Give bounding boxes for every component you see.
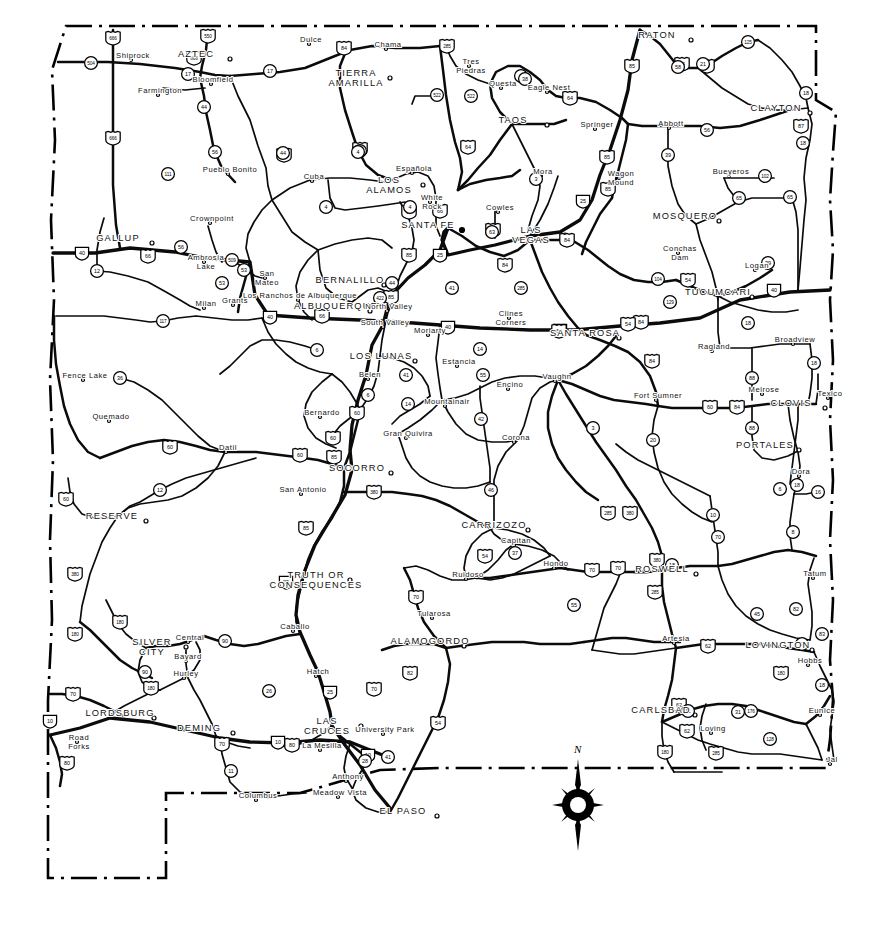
shield-number: 17 [185, 71, 191, 77]
shield-number: 129 [666, 300, 674, 305]
shield-state-14: 14 [474, 343, 487, 356]
shield-state-117: 117 [157, 315, 170, 328]
shield-state-509: 509 [226, 254, 239, 267]
shield-number: 36 [117, 375, 123, 381]
shield-number: 380 [370, 490, 378, 495]
shield-number: 65 [736, 195, 742, 201]
compass-north-label: N [573, 743, 582, 755]
town-label-capitan: Capitan [501, 536, 531, 545]
town-label-fence-lake: Fence Lake [62, 371, 107, 380]
shield-state-41: 41 [446, 282, 459, 295]
city-label-santa-rosa: SANTA ROSA [550, 328, 620, 338]
shield-number: 4 [357, 149, 360, 155]
town-label-questa: Questa [489, 79, 517, 88]
city-marker-reserve [144, 519, 148, 523]
shield-number: 6 [367, 392, 370, 398]
shield-number: 4 [409, 204, 412, 210]
shield-state-104: 104 [652, 273, 665, 286]
shield-number: 18 [800, 140, 806, 146]
city-label-truth-or-consequences: TRUTH ORCONSEQUENCES [270, 570, 363, 590]
shield-number: 180 [661, 750, 669, 755]
shield-us-60: 60 [163, 440, 177, 454]
town-label-dulce: Dulce [300, 35, 322, 44]
shield-number: 10 [47, 718, 53, 724]
shield-state-111: 111 [162, 168, 175, 181]
shield-number: 44 [389, 280, 395, 286]
shield-us-84: 84 [634, 315, 648, 329]
shield-state-56: 56 [701, 124, 714, 137]
town-label-san-mateo: SanMateo [255, 269, 279, 287]
shield-us-82: 82 [403, 666, 417, 680]
shield-us-380: 380 [68, 567, 82, 581]
shield-state-44: 44 [198, 101, 211, 114]
shield-state-18: 18 [816, 679, 829, 692]
shield-state-42: 42 [475, 413, 488, 426]
shield-us-85: 85 [600, 150, 614, 164]
shield-state-18: 18 [791, 479, 804, 492]
shield-state-21: 21 [697, 58, 710, 71]
shield-number: 12 [94, 268, 100, 274]
shield-state-10: 10 [707, 509, 720, 522]
shield-number: 70 [589, 567, 595, 573]
city-label-mosquero: MOSQUERO [653, 211, 717, 221]
city-label-clovis: CLOVIS [770, 398, 811, 408]
shield-state-58: 58 [672, 61, 685, 74]
shield-number: 85 [388, 294, 394, 300]
town-label-meadow-vista: Meadow Vista [313, 788, 367, 797]
town-label-bloomfield: Bloomfield [193, 75, 234, 84]
town-label-cowles: Cowles [486, 203, 514, 212]
shield-us-180: 180 [144, 681, 158, 695]
town-label-ragland: Ragland [698, 342, 730, 351]
city-marker-carrizozo [526, 528, 530, 532]
town-label-gran-quivira: Gran Quivira [383, 429, 433, 438]
city-marker-roswell [694, 572, 698, 576]
shield-number: 21 [700, 61, 706, 67]
shield-number: 25 [580, 198, 586, 204]
shield-state-31: 31 [732, 706, 745, 719]
town-label-dora: Dora [792, 467, 811, 476]
shield-us-180: 180 [113, 615, 127, 629]
town-label-corona: Corona [502, 433, 530, 442]
shield-number: 44 [280, 150, 286, 156]
city-label-santa-fe: SANTA FE [401, 220, 454, 230]
shield-number: 54 [482, 553, 488, 559]
town-label-anthony: Anthony [332, 772, 364, 781]
shield-number: 55 [480, 372, 486, 378]
town-label-south-valley: South Valley [361, 318, 410, 327]
shield-state-4: 4 [352, 146, 365, 159]
shield-number: 55 [571, 602, 577, 608]
shield-number: 180 [71, 632, 79, 637]
shield-number: 40 [445, 324, 451, 330]
shield-number: 54 [435, 720, 441, 726]
shield-us-550: 550 [201, 29, 215, 43]
shield-number: 41 [385, 754, 391, 760]
shield-state-56: 56 [175, 241, 188, 254]
shield-number: 39 [665, 152, 671, 158]
shield-state-88: 88 [746, 422, 759, 435]
shield-number: 84 [341, 45, 347, 51]
city-label-tierra-amarilla: TIERRAAMARILLA [328, 68, 383, 88]
shield-number: 84 [649, 358, 655, 364]
shield-us-54: 54 [478, 549, 492, 563]
shield-number: 82 [793, 606, 799, 612]
town-label-loving: Loving [700, 724, 726, 733]
shield-number: 285 [604, 511, 612, 516]
shield-number: 80 [64, 760, 70, 766]
shield-number: 60 [354, 410, 360, 416]
town-label-hobbs: Hobbs [798, 656, 823, 665]
town-label-white-rock: WhiteRock [421, 193, 443, 211]
shield-number: 180 [116, 620, 124, 625]
town-label-fort-sumner: Fort Sumner [634, 391, 682, 400]
shield-number: 18 [745, 320, 751, 326]
city-marker-socorro [389, 471, 393, 475]
shield-state-65: 65 [784, 191, 797, 204]
town-label-road-forks: RoadForks [68, 733, 90, 751]
shield-number: 26 [266, 688, 272, 694]
shield-us-84: 84 [730, 400, 744, 414]
shield-state-4: 4 [320, 201, 333, 214]
shield-us-70: 70 [611, 561, 625, 575]
shield-number: 128 [766, 737, 774, 742]
shield-number: 45 [754, 611, 760, 617]
shield-number: 522 [467, 94, 475, 99]
shield-number: 666 [109, 136, 117, 141]
